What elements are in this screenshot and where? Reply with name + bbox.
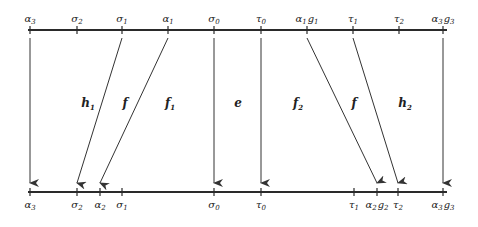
- tick-label-tau1: τ1: [349, 199, 359, 212]
- mapping-diagram: α3σ2σ1α1σ0τ0α1g1τ1τ2α3g3 α3σ2α2σ1σ0τ0τ1α…: [0, 0, 478, 227]
- tick-label-alpha3: α3: [24, 199, 36, 212]
- tick-label-tau2: τ2: [393, 199, 404, 212]
- tick-label-sigma1: σ1: [116, 199, 127, 212]
- region-label-h2: h2: [398, 96, 412, 112]
- tick-label-tau0: τ0: [256, 13, 267, 26]
- region-label-e: e: [234, 96, 242, 110]
- tick-label-sigma2: σ2: [71, 199, 83, 212]
- tick-label-alpha1g1: α1g1: [295, 13, 318, 26]
- tick-label-tau2: τ2: [394, 13, 405, 26]
- bottom-number-line: α3σ2α2σ1σ0τ0τ1α2g2τ2α3g3: [24, 188, 455, 212]
- tick-label-sigma1: σ1: [116, 13, 127, 26]
- arrow-sigma1-to-sigma2: [77, 38, 122, 183]
- tick-label-tau0: τ0: [256, 199, 267, 212]
- arrow-tau1-to-tau2: [353, 38, 398, 183]
- tick-label-tau1: τ1: [348, 13, 358, 26]
- tick-label-sigma2: σ2: [71, 13, 83, 26]
- region-label-f: f: [350, 96, 358, 110]
- tick-label-alpha2: α2: [94, 199, 106, 212]
- tick-label-alpha1: α1: [162, 13, 173, 26]
- tick-label-alpha3g3: α3g3: [431, 199, 455, 212]
- region-labels: h1ff1ef2fh2: [81, 96, 412, 112]
- tick-label-sigma0: σ0: [208, 199, 220, 212]
- region-label-f1: f1: [164, 96, 175, 112]
- region-label-f2: f2: [292, 96, 303, 112]
- top-number-line: α3σ2σ1α1σ0τ0α1g1τ1τ2α3g3: [24, 13, 455, 34]
- tick-label-alpha3g3: α3g3: [431, 13, 455, 26]
- arrow-alpha1-to-alpha2: [100, 38, 168, 183]
- tick-label-alpha3: α3: [24, 13, 36, 26]
- tick-label-alpha2g2: α2g2: [365, 199, 389, 212]
- region-label-h1: h1: [81, 96, 95, 112]
- arrow-alpha1g1-to-alpha2g2: [307, 38, 377, 183]
- tick-label-sigma0: σ0: [208, 13, 220, 26]
- region-label-f: f: [121, 96, 129, 110]
